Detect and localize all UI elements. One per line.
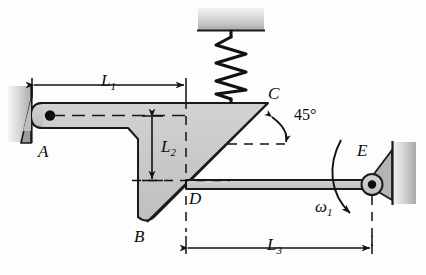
label-dimension-l2: L2: [161, 138, 176, 158]
label-point-b: B: [134, 228, 144, 245]
label-dimension-l1: L1: [101, 72, 116, 92]
right-wall-support: [392, 141, 416, 205]
bell-crank-body: [21, 100, 268, 222]
label-point-d: D: [189, 190, 201, 207]
diagram-canvas: [0, 0, 426, 275]
omega-rotation-arrow: [332, 140, 350, 213]
label-angle-45: 45°: [294, 107, 316, 123]
top-wall-support: [197, 8, 265, 31]
label-point-a: A: [38, 143, 48, 160]
coil-spring: [216, 31, 246, 104]
label-point-e: E: [357, 142, 367, 159]
angle-arc-45: [272, 117, 286, 142]
connecting-rod-de: [186, 180, 372, 189]
label-point-c: C: [268, 85, 279, 102]
label-omega-1: ω1: [315, 198, 333, 218]
label-dimension-l3: L3: [267, 236, 282, 256]
mechanism-diagram: A B C D E L1 L2 L3 45° ω1: [0, 0, 426, 275]
